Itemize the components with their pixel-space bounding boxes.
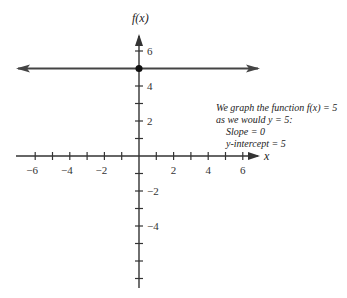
annotation-note: We graph the function f(x) = 5 as we wou… [216,102,337,150]
x-tick-label: 6 [240,164,246,176]
x-tick-label: 4 [205,164,211,176]
x-tick-label: −2 [96,164,108,176]
y-intercept-point [136,65,143,72]
x-tick-label: −6 [26,164,38,176]
axes [16,36,258,288]
y-tick-label: 4 [147,80,153,92]
note-line-2: as we would y = 5: [216,114,337,126]
y-axis-label: f(x) [132,11,149,25]
x-tick-label: −4 [61,164,73,176]
note-line-4: y-intercept = 5 [216,138,337,150]
x-tick-label: 2 [171,164,177,176]
y-tick-label: 6 [147,45,153,57]
y-tick-label: −2 [147,185,159,197]
y-tick-label: 2 [147,115,153,127]
note-line-3: Slope = 0 [216,126,337,138]
note-line-1: We graph the function f(x) = 5 [216,102,337,114]
y-tick-label: −4 [147,220,159,232]
function-line [16,65,260,73]
x-axis-label: x [263,149,270,163]
